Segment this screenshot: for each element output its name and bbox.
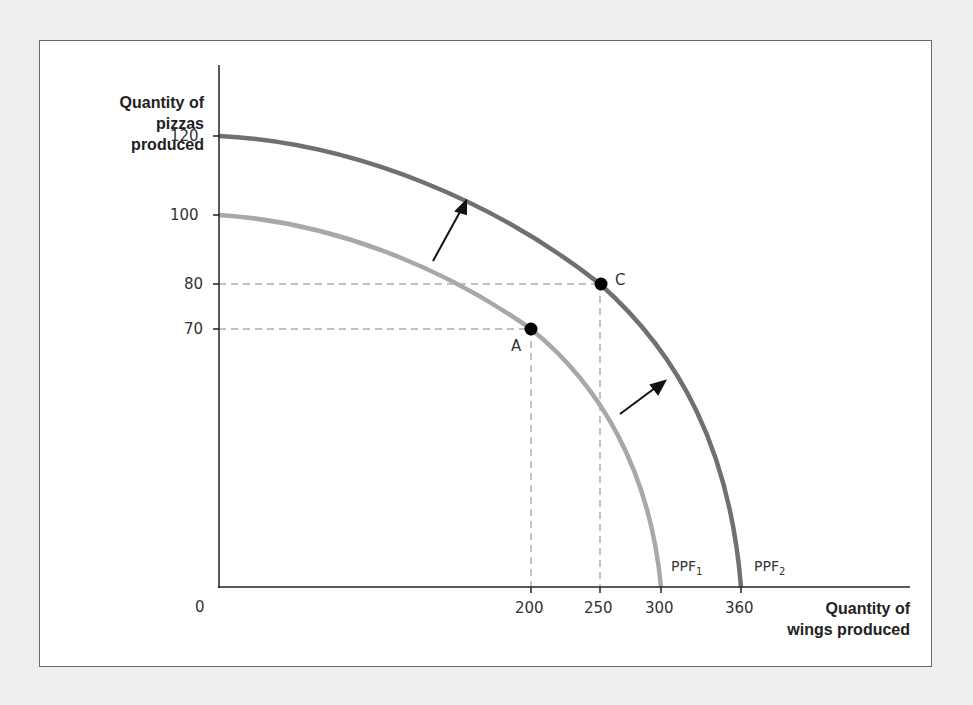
guide-lines [219,284,600,587]
ppf2-curve [219,136,741,587]
point-a-marker [525,323,538,336]
point-c-marker [595,278,608,291]
chart-plot [0,0,973,705]
y-tick-120: 120 [170,127,199,145]
x-tick-200: 200 [515,599,544,617]
point-c-label: C [615,271,625,289]
ppf2-label-sub: 2 [779,566,785,577]
ppf1-label-sub: 1 [696,566,702,577]
x-tick-360: 360 [725,599,754,617]
ppf1-label: PPF1 [671,558,702,577]
x-tick-300: 300 [645,599,674,617]
ppf2-label-main: PPF [754,558,779,574]
ppf2-label: PPF2 [754,558,785,577]
ppf1-label-main: PPF [671,558,696,574]
y-tick-100: 100 [170,206,199,224]
point-a-label: A [511,337,521,355]
ppf1-curve [219,215,661,587]
x-tick-250: 250 [584,599,613,617]
shift-arrows [433,201,665,414]
y-tick-80: 80 [184,275,203,293]
origin-label: 0 [195,598,205,616]
y-tick-70: 70 [184,320,203,338]
